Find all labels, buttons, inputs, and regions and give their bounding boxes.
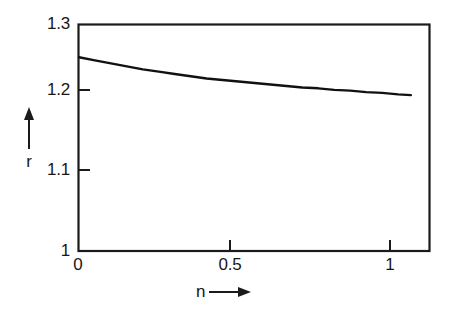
x-tick-label-1: 1 (385, 255, 394, 275)
right-arrow-icon (208, 285, 252, 299)
y-tick-label-1.3: 1.3 (28, 14, 70, 34)
y-tick-label-1: 1 (28, 241, 70, 261)
y-axis-title-text: r (26, 152, 32, 172)
x-tick-label-0: 0 (73, 255, 82, 275)
y-axis-title: r (22, 106, 36, 172)
x-tick-label-0.5: 0.5 (218, 255, 241, 275)
plot-frame (79, 25, 430, 252)
x-axis-title-text: n (196, 282, 205, 302)
up-arrow-icon (22, 106, 36, 150)
y-tick-label-1.2: 1.2 (28, 80, 70, 100)
chart-figure: 1.3 1.2 1.1 1 0 0.5 1 n r (0, 0, 450, 320)
x-axis-title: n (196, 282, 252, 302)
